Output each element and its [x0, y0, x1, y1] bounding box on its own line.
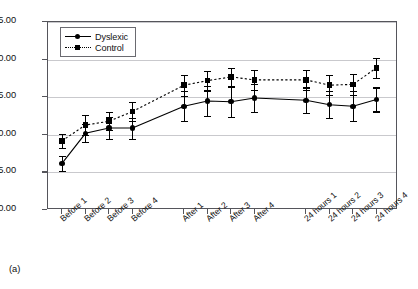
series-bridge-dyslexic: [255, 98, 307, 100]
error-bar-cap-control-lower: [373, 78, 380, 79]
gridline-25.00: [48, 22, 396, 23]
error-bar-cap-control-upper: [228, 68, 235, 69]
y-axis-tick-mark: [42, 59, 47, 60]
data-point-dyslexic: [252, 95, 257, 100]
gridline-5.00: [48, 172, 396, 173]
legend-item-control: Control: [65, 42, 128, 53]
figure-panel-a: 0.005.0010.0015.0020.0025.00 Before 1Bef…: [0, 0, 418, 289]
series-segment-dyslexic: [306, 99, 377, 106]
y-axis-tick-label: 15.00: [0, 90, 16, 100]
error-bar-cap-dyslexic-upper: [59, 156, 66, 157]
error-bar-cap-control-upper: [181, 75, 188, 76]
error-bar-cap-control-upper: [303, 70, 310, 71]
gridline-20.00: [48, 60, 396, 61]
error-bar-cap-control-upper: [106, 112, 113, 113]
y-axis-tick-mark: [42, 171, 47, 172]
series-segment-dyslexic: [62, 128, 133, 163]
series-segment-control: [62, 111, 133, 140]
error-bar-cap-dyslexic-lower: [82, 142, 89, 143]
error-bar-cap-control-lower: [82, 135, 89, 136]
legend-swatch-dyslexic: [65, 32, 91, 42]
series-segment-control: [306, 68, 377, 85]
data-point-control: [205, 78, 211, 84]
gridline-10.00: [48, 135, 396, 136]
data-point-control: [130, 109, 136, 115]
error-bar-cap-control-upper: [350, 74, 357, 75]
error-bar-cap-control-lower: [204, 90, 211, 91]
error-bar-cap-dyslexic-lower: [181, 121, 188, 122]
error-bar-cap-control-upper: [59, 134, 66, 135]
error-bar-cap-control-lower: [59, 148, 66, 149]
error-bar-cap-control-lower: [251, 90, 258, 91]
data-point-dyslexic: [327, 102, 332, 107]
error-bar-cap-control-upper: [373, 58, 380, 59]
gridline-15.00: [48, 97, 396, 98]
legend-label-control: Control: [95, 43, 124, 53]
data-point-dyslexic: [228, 99, 233, 104]
error-bar-cap-control-lower: [303, 90, 310, 91]
chart-legend: Dyslexic Control: [60, 27, 136, 57]
data-point-control: [252, 77, 258, 83]
y-axis-tick-label: 25.00: [0, 15, 16, 25]
error-bar-cap-dyslexic-lower: [373, 111, 380, 112]
y-axis-tick-label: 0.00: [0, 203, 16, 213]
error-bar-cap-dyslexic-lower: [326, 118, 333, 119]
data-point-control: [303, 77, 309, 83]
error-bar-cap-control-upper: [251, 70, 258, 71]
data-point-control: [106, 118, 112, 124]
error-bar-cap-dyslexic-lower: [59, 171, 66, 172]
error-bar-cap-dyslexic-lower: [204, 116, 211, 117]
data-point-control: [228, 74, 234, 80]
data-point-control: [350, 82, 356, 88]
y-axis-tick-mark: [42, 21, 47, 22]
series-bridge-control: [133, 85, 185, 111]
data-point-control: [59, 138, 65, 144]
data-point-dyslexic: [374, 97, 379, 102]
figure-caption: (a): [9, 263, 20, 274]
series-segment-dyslexic: [184, 98, 255, 106]
data-point-control: [374, 65, 380, 71]
error-bar-cap-dyslexic-lower: [350, 121, 357, 122]
data-point-dyslexic: [59, 161, 64, 166]
error-bar-cap-control-lower: [326, 95, 333, 96]
data-point-control: [327, 82, 333, 88]
error-bar-cap-dyslexic-lower: [303, 113, 310, 114]
error-bar-cap-control-lower: [350, 95, 357, 96]
error-bar-cap-dyslexic-upper: [373, 87, 380, 88]
data-point-dyslexic: [181, 104, 186, 109]
error-bar-cap-dyslexic-lower: [228, 117, 235, 118]
y-axis-tick-mark: [42, 134, 47, 135]
legend-label-dyslexic: Dyslexic: [95, 32, 128, 42]
error-bar-cap-control-upper: [129, 102, 136, 103]
error-bar-cap-control-upper: [82, 115, 89, 116]
error-bar-cap-dyslexic-lower: [129, 139, 136, 140]
data-point-dyslexic: [205, 98, 210, 103]
data-point-dyslexic: [130, 125, 135, 130]
error-bar-cap-control-lower: [228, 86, 235, 87]
y-axis-tick-label: 10.00: [0, 128, 16, 138]
error-bar-cap-dyslexic-lower: [106, 139, 113, 140]
series-segment-control: [184, 77, 255, 85]
data-point-dyslexic: [350, 104, 355, 109]
y-axis-tick-label: 20.00: [0, 53, 16, 63]
error-bar-cap-control-lower: [181, 96, 188, 97]
y-axis-tick-mark: [42, 96, 47, 97]
y-axis-tick-mark: [42, 209, 47, 210]
data-point-dyslexic: [303, 98, 308, 103]
data-point-control: [181, 82, 187, 88]
legend-item-dyslexic: Dyslexic: [65, 31, 128, 42]
legend-swatch-control: [65, 43, 91, 53]
error-bar-cap-control-lower: [129, 121, 136, 122]
error-bar-cap-control-upper: [204, 71, 211, 72]
series-bridge-dyslexic: [133, 106, 185, 128]
y-axis-tick-label: 5.00: [0, 165, 16, 175]
error-bar-cap-control-lower: [106, 130, 113, 131]
data-point-control: [83, 122, 89, 128]
error-bar-cap-control-upper: [326, 75, 333, 76]
error-bar-cap-dyslexic-lower: [251, 112, 258, 113]
